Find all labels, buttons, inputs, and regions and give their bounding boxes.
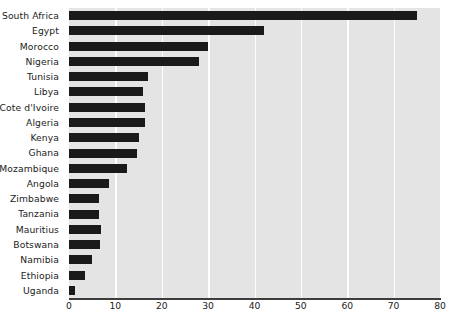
bar-row [69,23,440,38]
bar [69,194,99,203]
bar [69,240,100,249]
y-axis-tick-label: Egypt [0,23,64,38]
bar-row [69,69,440,84]
plot-area [69,8,440,298]
y-axis-tick-label: South Africa [0,8,64,23]
bar [69,87,143,96]
bar-row [69,145,440,160]
bar [69,72,148,81]
y-axis-tick-label: Angola [0,176,64,191]
bar [69,103,145,112]
y-axis-tick-label: Namibia [0,252,64,267]
y-axis-tick-label: Morocco [0,39,64,54]
bar-row [69,161,440,176]
bar [69,133,139,142]
x-axis-tick-label: 20 [156,301,168,310]
y-axis-tick-label: Ethiopia [0,268,64,283]
x-axis-tick-label: 40 [249,301,261,310]
x-axis-tick-label: 60 [341,301,353,310]
bar-row [69,84,440,99]
y-axis-tick-label: Zimbabwe [0,191,64,206]
bar [69,149,137,158]
y-axis-tick-label: Ghana [0,145,64,160]
y-axis-tick-label: Mauritius [0,222,64,237]
x-axis-tick-label: 30 [202,301,214,310]
bar-row [69,176,440,191]
bar-series [69,8,440,298]
x-axis-tick-label: 10 [110,301,122,310]
x-axis-tick-labels: 01020304050607080 [69,301,440,319]
bar-row [69,283,440,298]
x-axis-tick-label: 70 [388,301,400,310]
bar [69,26,264,35]
y-axis-tick-label: Libya [0,84,64,99]
bar-row [69,206,440,221]
bar-row [69,39,440,54]
bar-chart: South AfricaEgyptMoroccoNigeriaTunisiaLi… [0,0,449,322]
bar [69,42,208,51]
y-axis-tick-label: Nigeria [0,54,64,69]
bar [69,118,145,127]
bar-row [69,8,440,23]
bar [69,57,199,66]
bar [69,164,127,173]
y-axis-tick-label: Botswana [0,237,64,252]
y-axis-tick-label: Tanzania [0,206,64,221]
bar [69,179,109,188]
bar [69,255,92,264]
bar-row [69,100,440,115]
bar [69,225,101,234]
bar-row [69,222,440,237]
y-axis-tick-label: Mozambique [0,161,64,176]
bar [69,286,75,295]
bar [69,210,99,219]
bar-row [69,237,440,252]
y-axis-tick-label: Kenya [0,130,64,145]
bar [69,11,417,20]
x-axis-tick-label: 0 [66,301,72,310]
bar-row [69,130,440,145]
bar [69,271,85,280]
bar-row [69,191,440,206]
bar-row [69,115,440,130]
bar-row [69,268,440,283]
bar-row [69,54,440,69]
y-axis-tick-label: Algeria [0,115,64,130]
x-axis-tick-label: 80 [434,301,446,310]
y-axis-tick-label: Cote d'Ivoire [0,100,64,115]
y-axis-tick-label: Tunisia [0,69,64,84]
x-axis-tick-label: 50 [295,301,307,310]
y-axis-category-labels: South AfricaEgyptMoroccoNigeriaTunisiaLi… [0,8,64,298]
bar-row [69,252,440,267]
y-axis-tick-label: Uganda [0,283,64,298]
